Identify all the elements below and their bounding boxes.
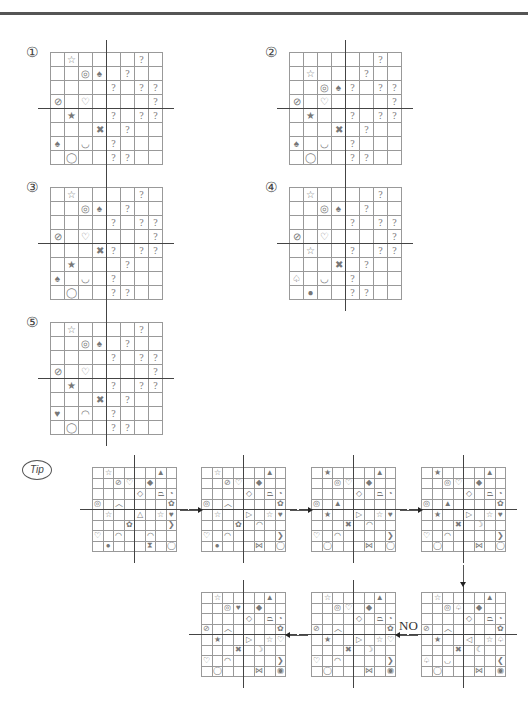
grid-cell: ◠ — [223, 531, 234, 542]
grid-cell — [364, 499, 375, 510]
grid-cell: ◠ — [254, 520, 265, 531]
grid-cell: ◉ — [385, 666, 396, 677]
grid-cell — [453, 468, 464, 479]
grid-cell — [156, 499, 167, 510]
grid-cell — [51, 67, 65, 81]
grid-cell — [374, 286, 388, 300]
grid-cell: ⋈ — [254, 541, 265, 552]
grid-cell — [432, 520, 443, 531]
grid-cell — [304, 216, 318, 230]
grid-cell — [443, 593, 454, 604]
grid-cell: △ — [135, 510, 146, 521]
grid-cell — [93, 541, 104, 552]
grid-cell — [202, 541, 213, 552]
grid-cell: ? — [107, 407, 121, 421]
grid-cell: ? — [149, 81, 163, 95]
grid-cell — [93, 53, 107, 67]
grid-cell: ? — [388, 81, 402, 95]
grid-cell: ◎ — [333, 603, 344, 614]
grid-cell — [422, 635, 433, 646]
grid-cell — [121, 95, 135, 109]
grid-cell — [312, 541, 323, 552]
grid-cell — [346, 123, 360, 137]
grid-cell: ▲ — [443, 499, 454, 510]
grid-cell — [318, 123, 332, 137]
grid-cell: ? — [149, 244, 163, 258]
x-axis — [38, 243, 174, 244]
grid-cell: ✖ — [93, 123, 107, 137]
grid-cell — [422, 645, 433, 656]
grid-cell — [265, 499, 276, 510]
grid-cell — [375, 645, 386, 656]
grid-cell: ♡ — [343, 603, 354, 614]
grid-cell — [360, 188, 374, 202]
grid-cell: ⋈ — [364, 666, 375, 677]
grid-cell: ⏢ — [156, 489, 167, 500]
grid-cell — [422, 510, 433, 521]
grid-cell: ? — [135, 379, 149, 393]
grid-cell — [107, 393, 121, 407]
grid-cell: ▷ — [354, 510, 365, 521]
grid-cell — [107, 365, 121, 379]
grid-cell — [93, 81, 107, 95]
grid-cell — [233, 510, 244, 521]
grid-cell: ? — [388, 230, 402, 244]
grid-cell: ✖ — [343, 645, 354, 656]
grid-cell: ♡ — [79, 365, 93, 379]
grid-cell — [93, 109, 107, 123]
grid-cell — [114, 510, 125, 521]
grid-cell: ? — [107, 379, 121, 393]
grid-cell — [474, 510, 485, 521]
grid-cell: ? — [360, 202, 374, 216]
grid-cell: ? — [346, 216, 360, 230]
grid-cell: ♠ — [93, 67, 107, 81]
grid-cell — [121, 53, 135, 67]
grid-cell — [290, 216, 304, 230]
grid-cell — [388, 202, 402, 216]
x-axis — [299, 509, 407, 510]
grid-cell — [464, 666, 475, 677]
grid-cell — [202, 603, 213, 614]
grid-cell — [135, 393, 149, 407]
grid-cell — [332, 188, 346, 202]
grid-cell — [156, 531, 167, 542]
grid-cell — [145, 520, 156, 531]
grid-cell — [374, 230, 388, 244]
grid-cell — [212, 624, 223, 635]
grid-cell: ? — [374, 53, 388, 67]
grid-cell — [485, 603, 496, 614]
grid-cell — [103, 489, 114, 500]
grid-cell — [254, 531, 265, 542]
grid-cell: ☆ — [103, 510, 114, 521]
grid-cell: ◯ — [432, 666, 443, 677]
grid-cell — [304, 123, 318, 137]
grid-cell: ︿ — [443, 624, 454, 635]
grid-cell: ? — [346, 137, 360, 151]
grid-cell: ? — [135, 351, 149, 365]
grid-cell — [333, 614, 344, 625]
grid-cell — [318, 109, 332, 123]
grid-cell: ◯ — [166, 541, 177, 552]
grid-cell — [265, 520, 276, 531]
grid-cell — [332, 230, 346, 244]
grid-cell — [51, 216, 65, 230]
grid-cell: ◇ — [354, 614, 365, 625]
grid-cell: ♥ — [233, 603, 244, 614]
grid-cell — [79, 109, 93, 123]
grid-cell — [322, 489, 333, 500]
grid-cell — [233, 624, 244, 635]
grid-cell: ◎ — [333, 478, 344, 489]
grid-cell — [93, 520, 104, 531]
grid-cell: ▲ — [375, 593, 386, 604]
grid-cell — [422, 520, 433, 531]
arrow-left-icon — [285, 632, 290, 638]
grid-cell — [354, 603, 365, 614]
grid-cell: ❯ — [275, 656, 286, 667]
grid-cell — [202, 635, 213, 646]
grid-cell: ◔ — [166, 489, 177, 500]
grid-cell — [93, 478, 104, 489]
grid-cell: ? — [107, 272, 121, 286]
grid-cell — [453, 531, 464, 542]
grid-cell — [318, 286, 332, 300]
grid-cell: ? — [360, 67, 374, 81]
